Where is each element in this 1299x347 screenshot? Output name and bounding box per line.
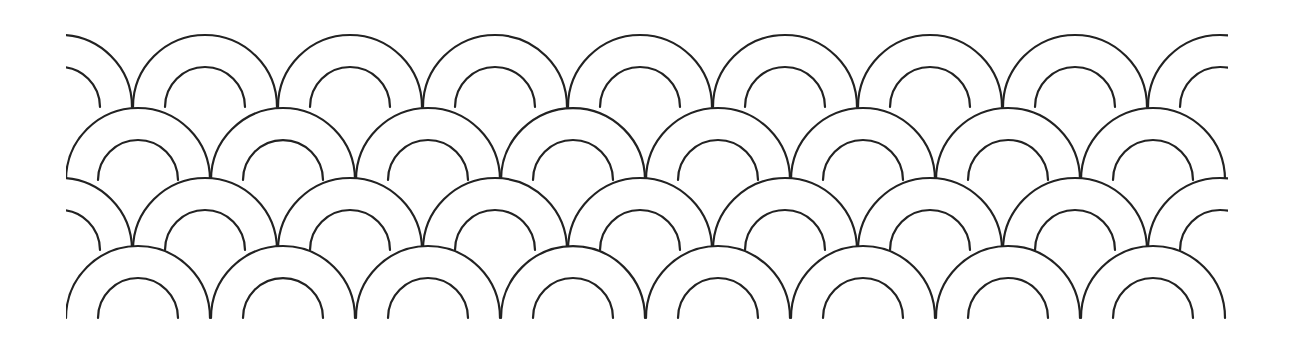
pattern-row-3 xyxy=(0,178,1292,250)
scale-motif xyxy=(1148,178,1292,250)
outer-arc xyxy=(858,35,1002,107)
scale-motif xyxy=(133,178,277,250)
scale-motif xyxy=(1081,108,1225,180)
scale-motif xyxy=(568,35,712,107)
scale-motif xyxy=(501,108,645,180)
outer-arc xyxy=(646,108,790,180)
scale-motif xyxy=(278,35,422,107)
outer-arc xyxy=(423,178,567,250)
outer-arc xyxy=(791,246,935,318)
outer-arc xyxy=(568,35,712,107)
scale-motif xyxy=(356,108,500,180)
outer-arc xyxy=(356,108,500,180)
outer-arc xyxy=(791,108,935,180)
scale-motif xyxy=(791,246,935,318)
outer-arc xyxy=(646,246,790,318)
scale-motif xyxy=(211,246,355,318)
outer-arc xyxy=(713,35,857,107)
outer-arc xyxy=(1081,108,1225,180)
scale-motif xyxy=(0,178,132,250)
scale-motif xyxy=(936,108,1080,180)
outer-arc xyxy=(278,35,422,107)
outer-arc xyxy=(1003,35,1147,107)
outer-arc xyxy=(1148,178,1292,250)
scale-motif xyxy=(568,178,712,250)
scale-motif xyxy=(278,178,422,250)
scale-motif xyxy=(858,35,1002,107)
pattern-row-2 xyxy=(66,108,1225,180)
outer-arc xyxy=(936,108,1080,180)
outer-arc xyxy=(936,246,1080,318)
scale-motif xyxy=(0,35,132,107)
scale-motif xyxy=(791,108,935,180)
outer-arc xyxy=(1148,35,1292,107)
scale-motif xyxy=(501,246,645,318)
outer-arc xyxy=(211,108,355,180)
outer-arc xyxy=(133,35,277,107)
scale-motif xyxy=(1003,35,1147,107)
scale-pattern-illustration xyxy=(0,0,1299,347)
scale-motif xyxy=(133,35,277,107)
scale-motif xyxy=(646,246,790,318)
scale-motif xyxy=(66,246,210,318)
scale-motif xyxy=(713,178,857,250)
outer-arc xyxy=(66,246,210,318)
outer-arc xyxy=(211,246,355,318)
scale-motif xyxy=(1003,178,1147,250)
pattern-arcs xyxy=(0,35,1292,318)
outer-arc xyxy=(423,35,567,107)
outer-arc xyxy=(278,178,422,250)
pattern-row-4 xyxy=(66,246,1225,318)
outer-arc xyxy=(501,108,645,180)
outer-arc xyxy=(858,178,1002,250)
outer-arc xyxy=(0,35,132,107)
scale-motif xyxy=(1148,35,1292,107)
scale-motif xyxy=(356,246,500,318)
outer-arc xyxy=(1003,178,1147,250)
outer-arc xyxy=(568,178,712,250)
scale-motif xyxy=(66,108,210,180)
scale-motif xyxy=(211,108,355,180)
outer-arc xyxy=(356,246,500,318)
scale-motif xyxy=(1081,246,1225,318)
outer-arc xyxy=(133,178,277,250)
scale-motif xyxy=(423,35,567,107)
outer-arc xyxy=(66,108,210,180)
scale-motif xyxy=(423,178,567,250)
scale-motif xyxy=(858,178,1002,250)
scale-motif xyxy=(936,246,1080,318)
outer-arc xyxy=(0,178,132,250)
outer-arc xyxy=(501,246,645,318)
outer-arc xyxy=(713,178,857,250)
scale-motif xyxy=(713,35,857,107)
pattern-row-1 xyxy=(0,35,1292,107)
outer-arc xyxy=(1081,246,1225,318)
scale-motif xyxy=(646,108,790,180)
